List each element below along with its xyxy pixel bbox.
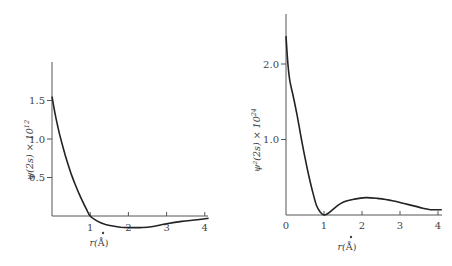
- left-y-axis-label: ψ(2s) × 1012: [23, 120, 35, 180]
- right-chart: 01234 1.02.0 ψ²(2s) × 1024 r(Å): [250, 14, 442, 252]
- x-tick-label: 1: [87, 222, 93, 233]
- y-tick-label: 1.5: [29, 95, 45, 106]
- x-tick-label: 3: [397, 220, 403, 231]
- figure-canvas: 1234 0.51.01.5 ψ(2s) × 1012 r(Å) 01234 1…: [0, 0, 452, 266]
- psi-2s-squared-curve: [286, 36, 442, 215]
- y-tick-label: 2.0: [263, 59, 279, 70]
- angstrom-ring-left: [102, 232, 104, 234]
- x-tick-label: 4: [202, 222, 208, 233]
- angstrom-ring-right: [350, 236, 352, 238]
- left-chart: 1234 0.51.01.5 ψ(2s) × 1012 r(Å): [23, 62, 209, 248]
- left-x-axis-label: r(Å): [90, 237, 109, 248]
- left-x-ticks: 1234: [87, 212, 208, 233]
- y-tick-label: 1.0: [263, 134, 279, 145]
- right-y-axis-label: ψ²(2s) × 1024: [250, 108, 262, 172]
- x-tick-label: 1: [321, 220, 327, 231]
- psi-2s-curve: [52, 97, 209, 228]
- right-x-ticks: 01234: [283, 211, 441, 231]
- right-y-ticks: 1.02.0: [263, 59, 286, 146]
- x-tick-label: 0: [283, 220, 289, 231]
- x-tick-label: 4: [435, 220, 441, 231]
- x-tick-label: 2: [359, 220, 365, 231]
- right-x-axis-label: r(Å): [338, 241, 357, 252]
